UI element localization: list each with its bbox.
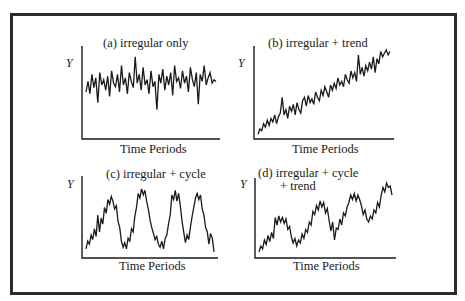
panel-c-series-line: [86, 189, 214, 252]
panel-d-series-line: [259, 183, 392, 252]
panel-c-svg: [82, 176, 218, 258]
panel-d-svg: [255, 178, 396, 258]
panel-b-plot: [254, 46, 394, 139]
panel-b-x-label: Time Periods: [292, 142, 359, 157]
panel-a-svg: [82, 46, 220, 139]
panel-b-series-line: [258, 50, 390, 134]
panel-a-series-line: [86, 57, 216, 110]
panel-c-x-label: Time Periods: [119, 259, 186, 274]
panel-c-y-label: Y: [67, 177, 74, 192]
panel-d-y-label: Y: [240, 177, 247, 192]
panel-a-y-label: Y: [66, 56, 73, 71]
panel-c-plot: [82, 176, 218, 258]
panel-b-svg: [254, 46, 394, 139]
panel-d-axes: [255, 178, 396, 258]
panel-b-y-label: Y: [238, 56, 245, 71]
panel-a-plot: [82, 46, 220, 139]
panel-a-x-label: Time Periods: [120, 142, 187, 157]
panel-d-x-label: Time Periods: [293, 259, 360, 274]
panel-d-plot: [255, 178, 396, 258]
